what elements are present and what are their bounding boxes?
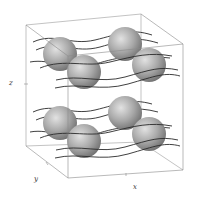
3d-sphere-lattice-figure [0, 0, 198, 198]
sphere [67, 124, 101, 158]
y-axis-label: y [34, 175, 38, 183]
sphere [132, 48, 166, 82]
sphere [132, 117, 166, 151]
x-axis-label: x [133, 183, 137, 191]
z-axis-label: z [9, 79, 13, 87]
sphere [67, 55, 101, 89]
